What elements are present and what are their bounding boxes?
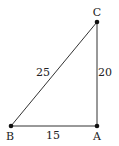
vertex-c-point	[95, 20, 100, 25]
side-ac-length: 20	[98, 66, 112, 79]
vertex-c-label: C	[93, 6, 101, 19]
side-bc-length: 25	[36, 66, 50, 79]
vertex-a-label: A	[92, 130, 102, 143]
triangle-diagram: C B A 25 20 15	[0, 0, 119, 146]
side-ab-length: 15	[46, 129, 60, 142]
side-bc	[11, 22, 97, 126]
vertex-b-label: B	[6, 130, 14, 143]
vertex-b-point	[9, 124, 14, 129]
vertex-a-point	[95, 124, 100, 129]
